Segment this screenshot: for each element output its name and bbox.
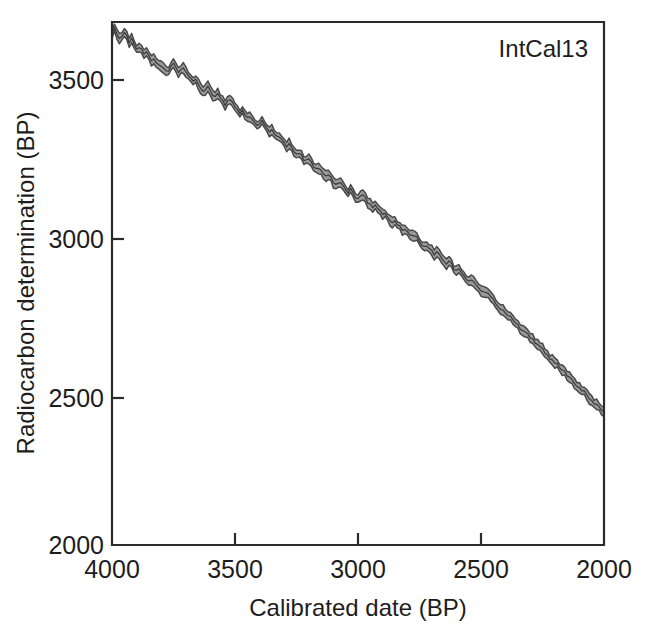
figure-container: 3500 3000 2500 2000 4000 3500 3000 2500 …	[0, 0, 646, 640]
x-tick-label-3000: 3000	[330, 555, 386, 583]
x-tick-label-4000: 4000	[84, 555, 140, 583]
y-tick-label-3500: 3500	[48, 66, 104, 94]
y-tick-label-3000: 3000	[48, 225, 104, 253]
y-tick-label-2500: 2500	[48, 384, 104, 412]
x-tick-label-2500: 2500	[453, 555, 509, 583]
x-tick-label-3500: 3500	[207, 555, 263, 583]
plot-area-background	[112, 22, 604, 545]
series-annotation-label: IntCal13	[499, 35, 588, 62]
x-tick-label-2000: 2000	[576, 555, 632, 583]
radiocarbon-calibration-chart: 3500 3000 2500 2000 4000 3500 3000 2500 …	[0, 0, 646, 640]
y-axis-title: Radiocarbon determination (BP)	[12, 112, 39, 455]
x-axis-title: Calibrated date (BP)	[249, 594, 466, 621]
